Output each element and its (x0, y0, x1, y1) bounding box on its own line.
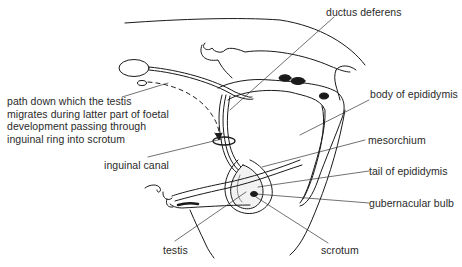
leader-body-epididymis (300, 100, 369, 135)
scrotal-wall-left (190, 210, 214, 258)
inguinal-ring (213, 137, 235, 145)
fetal-testis-origin (119, 60, 149, 77)
leader-gubernacular-bulb (256, 194, 369, 203)
label-body-of-epididymis: body of epididymis (370, 88, 458, 101)
label-ductus-deferens: ductus deferens (326, 6, 401, 19)
epididymis-arc-inner-2 (303, 106, 324, 199)
label-path-line-3: development passing through (7, 120, 187, 133)
cord-vertical-1 (219, 95, 240, 175)
small-oval (138, 81, 147, 86)
epididymis-nodule-3 (320, 93, 329, 99)
leader-mesorchium (262, 140, 365, 167)
anatomy-diagram: ductus deferens body of epididymis path … (0, 0, 462, 267)
label-mesorchium: mesorchium (368, 134, 426, 147)
label-testis: testis (163, 244, 188, 257)
label-migration-path: path down which the testis migrates duri… (7, 95, 187, 145)
label-path-line-4: inguinal ring into scrotum (7, 133, 187, 146)
abdominal-wall-outline (125, 19, 365, 65)
epididymis-nodule-1 (279, 75, 291, 81)
label-path-line-2: migrates during latter part of foetal (7, 108, 187, 121)
label-inguinal-canal: inguinal canal (104, 159, 169, 172)
gubernaculum-dark (178, 203, 198, 205)
upper-fold (201, 45, 232, 78)
epididymis-nodule-2 (291, 78, 305, 85)
label-tail-of-epididymis: tail of epididymis (369, 165, 448, 178)
leader-ductus-deferens (230, 17, 334, 110)
upper-organ-outline (203, 43, 350, 72)
label-gubernacular-bulb: gubernacular bulb (369, 197, 454, 210)
leader-testis (175, 192, 246, 241)
label-path-line-1: path down which the testis (7, 95, 187, 108)
leader-scrotum (256, 197, 328, 243)
left-curl (145, 185, 172, 200)
label-scrotum: scrotum (321, 244, 359, 257)
